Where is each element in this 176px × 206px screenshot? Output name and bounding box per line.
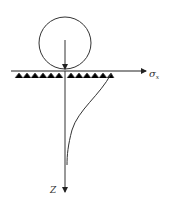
z-axis-label: Z <box>49 185 57 195</box>
stress-diagram: σx Z <box>0 0 176 206</box>
sigma-x-label: σx <box>149 68 160 80</box>
stress-curve <box>67 74 111 165</box>
